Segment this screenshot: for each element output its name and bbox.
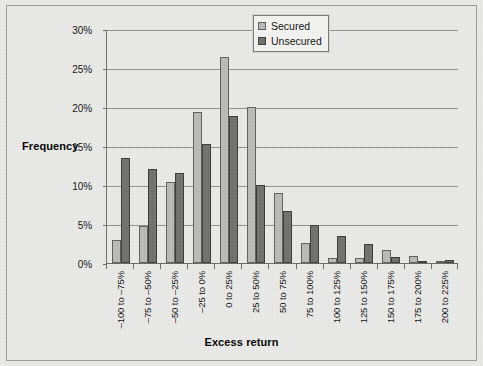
bar-secured[interactable]	[193, 112, 202, 263]
x-tick-mark	[323, 264, 350, 269]
x-tick-label: 200 to 225%	[439, 271, 450, 323]
x-axis-tick-labels: –100 to –75%–75 to –50%–50 to –25%–25 to…	[106, 271, 458, 333]
x-tick-mark	[377, 264, 404, 269]
x-tick-mark	[241, 264, 268, 269]
bar-secured[interactable]	[355, 258, 364, 263]
x-tick-label: –75 to –50%	[141, 271, 152, 323]
x-tick-label-cell: 175 to 200%	[404, 271, 431, 333]
x-tick-label: 175 to 200%	[412, 271, 423, 323]
chart-legend: Secured Unsecured	[252, 14, 330, 53]
x-tick-label: –50 to –25%	[168, 271, 179, 323]
legend-item-unsecured[interactable]: Unsecured	[258, 33, 322, 48]
x-tick-mark	[214, 264, 241, 269]
x-tick-label: 100 to 125%	[331, 271, 342, 323]
x-tick-label: 50 to 75%	[277, 271, 288, 313]
y-tick-label: 10%	[72, 181, 92, 192]
y-tick-label: 15%	[72, 142, 92, 153]
bar-series-container	[107, 30, 458, 263]
x-tick-label: 125 to 150%	[358, 271, 369, 323]
legend-swatch-secured-icon	[258, 22, 266, 30]
bar-unsecured[interactable]	[310, 225, 319, 263]
x-tick-label: –100 to –75%	[114, 271, 125, 328]
y-tick-label: 0%	[78, 259, 92, 270]
x-tick-mark	[187, 264, 214, 269]
y-tick-label: 30%	[72, 25, 92, 36]
legend-item-secured[interactable]: Secured	[258, 18, 322, 33]
x-tick-mark	[268, 264, 295, 269]
bar-group	[134, 30, 161, 263]
x-tick-label-cell: 0 to 25%	[214, 271, 241, 333]
bar-group	[296, 30, 323, 263]
bar-group	[188, 30, 215, 263]
y-tick-label: 25%	[72, 64, 92, 75]
x-tick-mark	[431, 264, 458, 269]
bar-unsecured[interactable]	[148, 169, 157, 263]
bar-group	[377, 30, 404, 263]
bar-group	[242, 30, 269, 263]
x-tick-label-cell: –100 to –75%	[106, 271, 133, 333]
x-tick-mark	[106, 264, 133, 269]
x-tick-label-cell: –50 to –25%	[160, 271, 187, 333]
x-tick-label-cell: 150 to 175%	[377, 271, 404, 333]
x-tick-label-cell: 25 to 50%	[241, 271, 268, 333]
bar-group	[350, 30, 377, 263]
x-tick-label: 150 to 175%	[385, 271, 396, 323]
legend-label-unsecured: Unsecured	[271, 35, 322, 47]
bar-unsecured[interactable]	[445, 260, 454, 263]
x-tick-label-cell: 75 to 100%	[296, 271, 323, 333]
x-tick-label-cell: –25 to 0%	[187, 271, 214, 333]
bar-secured[interactable]	[409, 256, 418, 263]
bar-unsecured[interactable]	[202, 144, 211, 263]
x-tick-label-cell: 125 to 150%	[350, 271, 377, 333]
bar-group	[404, 30, 431, 263]
bar-unsecured[interactable]	[121, 158, 130, 263]
bar-unsecured[interactable]	[418, 261, 427, 263]
bar-secured[interactable]	[328, 258, 337, 263]
x-axis-ticks	[106, 264, 458, 269]
x-tick-mark	[296, 264, 323, 269]
y-tick-label: 20%	[72, 103, 92, 114]
x-tick-label: 75 to 100%	[304, 271, 315, 318]
bar-secured[interactable]	[274, 193, 283, 263]
bar-group	[431, 30, 458, 263]
x-tick-label: 0 to 25%	[222, 271, 233, 308]
bar-group	[107, 30, 134, 263]
x-tick-mark	[404, 264, 431, 269]
legend-swatch-unsecured-icon	[258, 37, 266, 45]
bar-unsecured[interactable]	[337, 236, 346, 263]
x-tick-mark	[133, 264, 160, 269]
bar-group	[215, 30, 242, 263]
bar-unsecured[interactable]	[229, 116, 238, 263]
x-axis-title: Excess return	[0, 336, 483, 348]
x-tick-mark	[350, 264, 377, 269]
y-tick-label: 5%	[78, 220, 92, 231]
bar-secured[interactable]	[382, 250, 391, 263]
bar-unsecured[interactable]	[364, 244, 373, 263]
bar-secured[interactable]	[166, 182, 175, 263]
bar-group	[161, 30, 188, 263]
bar-secured[interactable]	[112, 240, 121, 263]
bar-group	[269, 30, 296, 263]
x-tick-label-cell: 200 to 225%	[431, 271, 458, 333]
bar-unsecured[interactable]	[175, 173, 184, 263]
bar-unsecured[interactable]	[256, 185, 265, 263]
y-axis-tick-labels: 0%5%10%15%20%25%30%	[0, 30, 100, 264]
x-tick-label: –25 to 0%	[195, 271, 206, 313]
bar-group	[323, 30, 350, 263]
bar-secured[interactable]	[220, 57, 229, 263]
bar-secured[interactable]	[301, 243, 310, 263]
bar-secured[interactable]	[436, 261, 445, 263]
plot-area	[106, 30, 458, 264]
x-tick-label: 25 to 50%	[249, 271, 260, 313]
chart-figure: Frequency 0%5%10%15%20%25%30% –100 to –7…	[0, 0, 483, 366]
x-tick-label-cell: –75 to –50%	[133, 271, 160, 333]
bar-unsecured[interactable]	[391, 257, 400, 263]
x-tick-mark	[160, 264, 187, 269]
bar-secured[interactable]	[247, 107, 256, 263]
x-tick-label-cell: 50 to 75%	[268, 271, 295, 333]
bar-secured[interactable]	[139, 226, 148, 263]
legend-label-secured: Secured	[271, 20, 310, 32]
bar-unsecured[interactable]	[283, 211, 292, 263]
x-tick-label-cell: 100 to 125%	[323, 271, 350, 333]
